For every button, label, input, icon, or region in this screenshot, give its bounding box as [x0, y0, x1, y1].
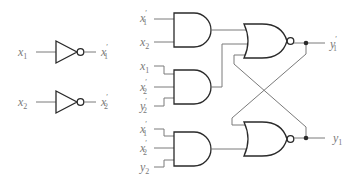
and-3-input-2-label: x′2	[139, 139, 147, 157]
inverter-2-bubble	[77, 99, 84, 106]
and-1-body	[174, 13, 211, 47]
inverter-1-output-label: x′1	[100, 43, 108, 61]
and-1-input-1-label: x′1	[139, 9, 147, 27]
logic-circuit-diagram: x1 x′1 x2 x′2 x′1 x2 x1 x′2 y′2 x′1 x′2 …	[0, 0, 362, 181]
and-2-input-2-label: x′2	[139, 78, 147, 96]
nor-top-bubble	[287, 38, 294, 45]
nor-bottom-output-label: y1	[332, 131, 342, 147]
junction-dot-top	[304, 41, 309, 46]
nor-gate-bottom: y1	[244, 122, 342, 156]
inverter-2-input-label: x2	[17, 95, 27, 111]
inverter-2: x2 x′2	[17, 91, 108, 113]
inverter-1-input-label: x1	[17, 45, 27, 61]
inverter-2-output-label: x′2	[100, 93, 108, 111]
and-3-body	[174, 132, 211, 166]
and-3-input-3-label: y2	[139, 160, 149, 176]
inverter-1-bubble	[77, 49, 84, 56]
and-3-input-1-label: x′1	[139, 120, 147, 138]
and-2-input-1-label: x1	[139, 59, 149, 75]
nor-top-body	[244, 24, 287, 58]
and-gate-1: x′1 x2	[139, 9, 211, 51]
nor-bottom-body	[244, 122, 287, 156]
inverter-2-triangle	[56, 91, 77, 113]
and-1-input-2-label: x2	[139, 35, 149, 51]
nor-top-output-label: y′1	[329, 35, 337, 53]
and-2-input-3-label: y′2	[139, 97, 147, 115]
inverter-1-triangle	[56, 41, 77, 63]
nor-bottom-bubble	[287, 136, 294, 143]
and-gate-2: x1 x′2 y′2	[139, 59, 211, 115]
junction-dot-bottom	[304, 136, 309, 141]
and-gate-3: x′1 x′2 y2	[139, 120, 211, 176]
and-2-body	[174, 70, 211, 104]
inverter-1: x1 x′1	[17, 41, 108, 63]
nor-gate-top: y′1	[244, 24, 337, 58]
